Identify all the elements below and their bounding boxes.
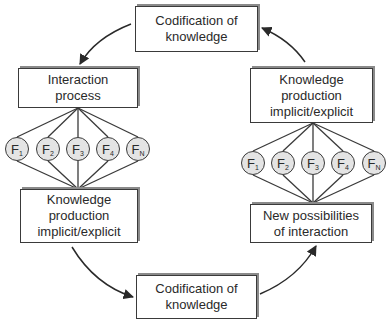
factor-node-right-3: F3 (301, 151, 325, 175)
node-subscript: 1 (255, 164, 259, 171)
box-interaction-process: Interaction process (18, 68, 138, 108)
arrow-left-production-to-bottom (72, 247, 133, 297)
box-text-line: New possibilities (263, 208, 359, 224)
box-text-line: knowledge (165, 29, 227, 45)
box-text-line: knowledge (165, 297, 227, 313)
factor-node-right-1: F1 (241, 151, 265, 175)
box-text-line: Knowledge (279, 72, 343, 88)
factor-node-left-3: F3 (66, 137, 90, 161)
node-subscript: 1 (19, 150, 23, 157)
factor-node-left-4: F4 (96, 137, 120, 161)
box-text-line: implicit/explicit (270, 104, 353, 120)
box-codification-bottom: Codification of knowledge (136, 275, 257, 319)
factor-node-right-2: F2 (271, 151, 295, 175)
box-text-line: production (49, 208, 110, 224)
node-subscript: 3 (315, 164, 319, 171)
box-text-line: of interaction (274, 224, 348, 240)
box-text-line: implicit/explicit (37, 224, 120, 240)
node-letter: F (11, 142, 19, 157)
arrow-bottom-to-new-possibilities (260, 246, 316, 294)
node-letter: F (247, 156, 255, 171)
node-subscript: 4 (110, 150, 114, 157)
box-text-line: production (281, 88, 342, 104)
node-letter: F (131, 142, 139, 157)
box-new-possibilities: New possibilities of interaction (250, 204, 372, 243)
box-knowledge-production-right: Knowledge production implicit/explicit (250, 68, 373, 123)
factor-node-left-n: FN (126, 137, 150, 161)
node-letter: F (277, 156, 285, 171)
node-subscript: 4 (345, 164, 349, 171)
node-letter: F (367, 156, 375, 171)
box-text-line: Codification of (155, 281, 237, 297)
factor-node-right-4: F4 (331, 151, 355, 175)
node-letter: F (72, 142, 80, 157)
box-knowledge-production-left: Knowledge production implicit/explicit (20, 189, 138, 243)
arrow-top-to-interaction (80, 24, 131, 64)
node-letter: F (307, 156, 315, 171)
node-letter: F (337, 156, 345, 171)
factor-node-left-1: F1 (5, 137, 29, 161)
node-letter: F (102, 142, 110, 157)
box-text-line: Interaction (48, 72, 109, 88)
box-text-line: process (55, 88, 101, 104)
factor-node-right-n: FN (362, 151, 386, 175)
node-subscript: 3 (80, 150, 84, 157)
box-codification-top: Codification of knowledge (135, 6, 258, 52)
node-subscript: N (375, 164, 380, 171)
factor-node-left-2: F2 (36, 137, 60, 161)
box-text-line: Codification of (155, 13, 237, 29)
arrow-right-production-to-top (262, 28, 305, 62)
box-text-line: Knowledge (47, 192, 111, 208)
node-subscript: N (139, 150, 144, 157)
node-letter: F (42, 142, 50, 157)
knowledge-cycle-diagram: Codification of knowledge Interaction pr… (0, 0, 389, 323)
node-subscript: 2 (285, 164, 289, 171)
node-subscript: 2 (50, 150, 54, 157)
